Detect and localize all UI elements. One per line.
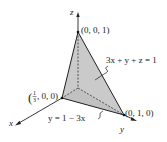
x-intercept-rest: , 0, 0) <box>37 91 58 101</box>
plane-face-front <box>62 32 124 115</box>
z-intercept-label: (0, 0, 1) <box>81 25 110 35</box>
x-intercept-frac-num: 1 <box>33 90 36 96</box>
y-axis-label: y <box>119 124 124 134</box>
x-intercept-open-paren: ( <box>28 90 32 105</box>
z-axis-arrow-icon <box>76 12 79 17</box>
x-intercept-frac-den: 3 <box>33 97 36 103</box>
x-axis-arrow-icon <box>15 121 21 126</box>
plane-diagram: z x y (0, 0, 1) (0, 1, 0) ( 1 3 , 0, 0) … <box>0 0 167 142</box>
x-axis-label: x <box>8 118 13 128</box>
vertex-x <box>61 97 64 100</box>
trace-equation-label: y = 1 − 3x <box>48 113 86 123</box>
vertex-z <box>77 31 80 34</box>
trace-label-pointer <box>98 111 103 119</box>
plane-equation-label: 3x + y + z = 1 <box>106 55 157 65</box>
z-axis-label: z <box>69 7 74 17</box>
y-intercept-label: (0, 1, 0) <box>125 108 154 118</box>
